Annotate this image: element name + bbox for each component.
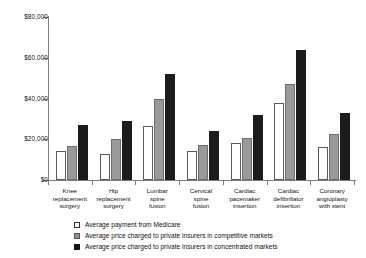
legend-item: Average payment from Medicare — [74, 219, 278, 230]
bar — [318, 147, 328, 180]
y-axis-tick-label: $80,000 — [4, 13, 48, 20]
legend-label: Average payment from Medicare — [85, 221, 181, 228]
bar-group — [318, 17, 350, 180]
legend-swatch-icon — [74, 233, 80, 239]
x-axis-tick — [179, 180, 180, 185]
bar-group — [231, 17, 263, 180]
bar — [209, 131, 219, 180]
bar — [154, 99, 164, 181]
x-axis-tick — [354, 180, 355, 185]
y-axis-tick-label: $60,000 — [4, 54, 48, 61]
legend-item: Average price charged to private insurer… — [74, 230, 278, 241]
chart-legend: Average payment from MedicareAverage pri… — [74, 219, 278, 252]
bar — [242, 138, 252, 180]
bar-group — [274, 17, 306, 180]
bar — [274, 103, 284, 180]
bar — [165, 74, 175, 180]
x-axis-tick — [267, 180, 268, 185]
bar — [340, 113, 350, 180]
category-label-line: with stent — [306, 202, 358, 210]
x-axis-tick — [48, 180, 49, 185]
bar — [56, 151, 66, 180]
bar — [187, 151, 197, 180]
x-axis-tick — [92, 180, 93, 185]
legend-swatch-icon — [74, 244, 80, 250]
grouped-bar-chart: $0$20,000$40,000$60,000$80,000 Kneerepla… — [0, 0, 366, 258]
plot-area — [48, 17, 354, 180]
bar — [67, 146, 77, 180]
x-axis-category-label: Coronaryangioplastywith stent — [306, 187, 358, 210]
legend-swatch-icon — [74, 222, 80, 228]
y-axis-tick-label: $20,000 — [4, 136, 48, 143]
bar — [329, 134, 339, 180]
x-axis-tick — [135, 180, 136, 185]
legend-label: Average price charged to private insurer… — [85, 232, 273, 239]
bar — [143, 126, 153, 180]
legend-label: Average price charged to private insurer… — [85, 243, 278, 250]
bar-group — [143, 17, 175, 180]
bar-group — [100, 17, 132, 180]
bar — [100, 154, 110, 180]
bar — [253, 115, 263, 180]
bar — [111, 139, 121, 180]
category-label-line: Coronary — [306, 187, 358, 195]
x-axis-tick — [223, 180, 224, 185]
bar — [296, 50, 306, 180]
bar-group — [187, 17, 219, 180]
legend-item: Average price charged to private insurer… — [74, 241, 278, 252]
bar-group — [56, 17, 88, 180]
x-axis-tick — [310, 180, 311, 185]
category-label-line: angioplasty — [306, 195, 358, 203]
y-axis-tick-label: $40,000 — [4, 95, 48, 102]
bar — [198, 145, 208, 180]
bar — [78, 125, 88, 180]
bar — [285, 84, 295, 180]
bar — [231, 143, 241, 180]
bar — [122, 121, 132, 180]
y-axis-tick-label: $0 — [4, 176, 48, 183]
